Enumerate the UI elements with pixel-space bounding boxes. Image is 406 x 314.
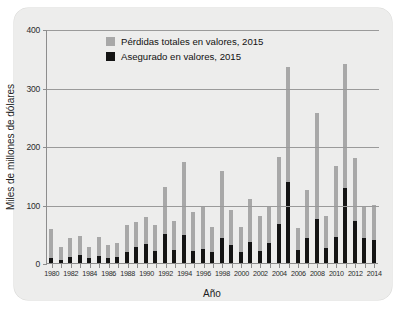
bar-insured <box>163 234 167 263</box>
x-tick-mark <box>355 264 356 268</box>
bar-insured <box>248 242 252 263</box>
x-tick-label: 2014 <box>361 269 387 278</box>
x-tick-mark <box>194 264 195 268</box>
x-tick-mark <box>166 264 167 268</box>
bar-insured <box>334 237 338 263</box>
gridline <box>47 89 379 90</box>
y-tick-label: 300 <box>6 84 40 94</box>
bar-insured <box>343 188 347 263</box>
y-tick-mark <box>43 264 47 265</box>
bar-insured <box>305 238 309 263</box>
y-tick-mark <box>43 89 47 90</box>
x-tick-mark <box>298 264 299 268</box>
x-tick-mark <box>241 264 242 268</box>
x-tick-mark <box>147 264 148 268</box>
bar-insured <box>153 251 157 263</box>
y-tick-label: 400 <box>6 25 40 35</box>
bar-insured <box>267 243 271 263</box>
gridline <box>47 147 379 148</box>
total-swatch-icon <box>106 37 115 46</box>
bar-insured <box>125 252 129 263</box>
x-tick-mark <box>80 264 81 268</box>
x-tick-mark <box>52 264 53 268</box>
bar-insured <box>87 258 91 263</box>
x-tick-mark <box>118 264 119 268</box>
gridline <box>47 30 379 31</box>
y-tick-label: 100 <box>6 201 40 211</box>
bar-chart-figure: Miles de millones de dólares 19801982198… <box>0 0 406 314</box>
legend-label-insured: Asegurado en valores, 2015 <box>121 51 241 62</box>
bar-insured <box>229 245 233 263</box>
x-tick-mark <box>279 264 280 268</box>
legend-item-insured: Asegurado en valores, 2015 <box>106 51 263 62</box>
bar-insured <box>134 247 138 263</box>
bar-insured <box>286 182 290 263</box>
bar-insured <box>191 251 195 263</box>
x-tick-mark <box>317 264 318 268</box>
bar-insured <box>78 255 82 263</box>
x-tick-mark <box>336 264 337 268</box>
bar-insured <box>97 256 101 263</box>
bar-insured <box>144 244 148 263</box>
x-tick-mark <box>185 264 186 268</box>
gridline <box>47 206 379 207</box>
x-tick-mark <box>365 264 366 268</box>
bar-insured <box>210 252 214 263</box>
bar-insured <box>115 257 119 263</box>
x-tick-mark <box>260 264 261 268</box>
x-tick-mark <box>222 264 223 268</box>
bar-insured <box>296 250 300 263</box>
x-tick-mark <box>156 264 157 268</box>
x-tick-mark <box>308 264 309 268</box>
x-tick-mark <box>137 264 138 268</box>
bar-insured <box>172 250 176 263</box>
insured-swatch-icon <box>106 52 115 61</box>
x-tick-mark <box>90 264 91 268</box>
bar-insured <box>324 248 328 263</box>
x-tick-mark <box>109 264 110 268</box>
bar-insured <box>68 257 72 263</box>
x-tick-mark <box>374 264 375 268</box>
x-tick-mark <box>327 264 328 268</box>
y-tick-label: 200 <box>6 142 40 152</box>
x-tick-mark <box>71 264 72 268</box>
y-tick-mark <box>43 206 47 207</box>
bar-insured <box>106 258 110 263</box>
bar-insured <box>315 219 319 263</box>
y-tick-label: 0 <box>6 259 40 269</box>
bar-insured <box>362 238 366 263</box>
x-tick-mark <box>270 264 271 268</box>
x-axis-label: Año <box>46 288 378 299</box>
x-tick-mark <box>251 264 252 268</box>
legend-item-total: Pérdidas totales en valores, 2015 <box>106 36 263 47</box>
x-tick-mark <box>346 264 347 268</box>
bar-insured <box>182 235 186 263</box>
y-tick-mark <box>43 147 47 148</box>
x-tick-mark <box>289 264 290 268</box>
x-tick-mark <box>213 264 214 268</box>
bar-insured <box>201 249 205 263</box>
x-tick-mark <box>128 264 129 268</box>
bar-insured <box>258 251 262 263</box>
x-tick-mark <box>175 264 176 268</box>
x-tick-mark <box>61 264 62 268</box>
bar-insured <box>277 224 281 263</box>
bar-insured <box>239 252 243 263</box>
y-tick-mark <box>43 30 47 31</box>
bar-insured <box>220 238 224 263</box>
x-tick-mark <box>204 264 205 268</box>
bar-insured <box>59 260 63 264</box>
bar-insured <box>353 221 357 263</box>
x-tick-mark <box>232 264 233 268</box>
chart-legend: Pérdidas totales en valores, 2015 Asegur… <box>106 36 263 66</box>
bar-insured <box>372 240 376 263</box>
legend-label-total: Pérdidas totales en valores, 2015 <box>121 36 263 47</box>
x-tick-mark <box>99 264 100 268</box>
bar-insured <box>49 258 53 263</box>
